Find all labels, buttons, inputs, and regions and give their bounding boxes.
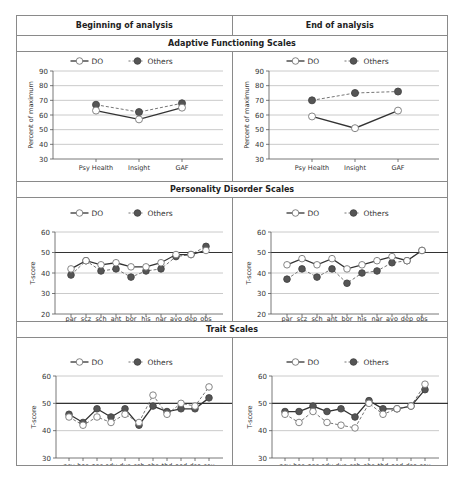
svg-text:30: 30 bbox=[41, 290, 50, 298]
column-header-end: End of analysis bbox=[232, 16, 448, 35]
chart-tr-end: 30405060T-scorepsyhosnaredydysschobsthdo… bbox=[232, 338, 448, 465]
svg-text:50: 50 bbox=[255, 126, 264, 134]
svg-text:Others: Others bbox=[363, 209, 388, 218]
svg-text:50: 50 bbox=[42, 400, 51, 408]
svg-text:80: 80 bbox=[39, 82, 48, 90]
svg-text:sch: sch bbox=[133, 462, 144, 465]
svg-text:scz: scz bbox=[296, 315, 307, 322]
svg-text:par: par bbox=[281, 315, 292, 322]
svg-text:thd: thd bbox=[162, 462, 173, 465]
line-chart-svg: 30405060T-scorepsyhosnaredydysschobsthdo… bbox=[17, 338, 232, 465]
svg-text:sex: sex bbox=[419, 462, 430, 465]
svg-text:30: 30 bbox=[42, 455, 51, 463]
svg-text:70: 70 bbox=[255, 97, 264, 105]
svg-text:Others: Others bbox=[148, 358, 173, 367]
svg-text:avo: avo bbox=[386, 315, 398, 322]
svg-text:sch: sch bbox=[311, 315, 322, 322]
svg-text:DO: DO bbox=[92, 358, 104, 367]
svg-text:sch: sch bbox=[95, 315, 106, 322]
svg-text:40: 40 bbox=[257, 270, 266, 278]
svg-text:DO: DO bbox=[92, 209, 104, 218]
svg-text:40: 40 bbox=[39, 141, 48, 149]
svg-text:DO: DO bbox=[92, 57, 104, 66]
chart-row-adaptive: 30405060708090Percent of maximumPsy Heal… bbox=[17, 52, 447, 182]
svg-text:DO: DO bbox=[307, 358, 319, 367]
svg-text:hos: hos bbox=[293, 462, 305, 465]
svg-text:bor: bor bbox=[126, 315, 137, 322]
svg-text:avo: avo bbox=[170, 315, 182, 322]
svg-text:Psy Health: Psy Health bbox=[79, 164, 113, 172]
svg-text:Others: Others bbox=[363, 358, 388, 367]
svg-text:30: 30 bbox=[257, 290, 266, 298]
svg-text:obs: obs bbox=[363, 462, 375, 465]
svg-text:Insight: Insight bbox=[343, 164, 365, 172]
svg-text:DO: DO bbox=[307, 57, 319, 66]
svg-text:hos: hos bbox=[77, 462, 89, 465]
svg-text:dep: dep bbox=[185, 315, 197, 322]
svg-text:psy: psy bbox=[279, 462, 291, 465]
svg-text:T-score: T-score bbox=[246, 405, 254, 429]
svg-text:40: 40 bbox=[42, 427, 51, 435]
svg-text:30: 30 bbox=[258, 455, 267, 463]
svg-text:40: 40 bbox=[41, 270, 50, 278]
svg-text:obs: obs bbox=[147, 462, 159, 465]
svg-text:his: his bbox=[141, 315, 151, 322]
chart-tr-begin: 30405060T-scorepsyhosnaredydysschobsthdo… bbox=[17, 338, 232, 465]
chart-pd-begin: 2030405060T-scoreparsczschantborhisnarav… bbox=[17, 198, 232, 321]
svg-text:dys: dys bbox=[335, 462, 347, 465]
svg-text:Others: Others bbox=[148, 57, 173, 66]
chart-row-personality: 2030405060T-scoreparsczschantborhisnarav… bbox=[17, 198, 447, 322]
svg-text:his: his bbox=[357, 315, 367, 322]
svg-text:obs: obs bbox=[200, 315, 212, 322]
svg-text:Insight: Insight bbox=[128, 164, 150, 172]
svg-text:50: 50 bbox=[257, 249, 266, 257]
svg-text:nar: nar bbox=[156, 315, 167, 322]
svg-text:GAF: GAF bbox=[391, 164, 404, 172]
svg-text:50: 50 bbox=[41, 249, 50, 257]
svg-text:90: 90 bbox=[39, 68, 48, 76]
svg-text:edy: edy bbox=[105, 462, 117, 465]
svg-text:60: 60 bbox=[42, 373, 51, 381]
chart-row-trait: 30405060T-scorepsyhosnaredydysschobsthdo… bbox=[17, 338, 447, 465]
chart-af-end: 30405060708090Percent of maximumPsy Heal… bbox=[232, 52, 448, 181]
section-title-trait: Trait Scales bbox=[17, 322, 447, 338]
svg-text:GAF: GAF bbox=[175, 164, 188, 172]
column-header-beginning: Beginning of analysis bbox=[17, 16, 232, 35]
svg-text:80: 80 bbox=[255, 82, 264, 90]
svg-text:sch: sch bbox=[349, 462, 360, 465]
svg-text:30: 30 bbox=[255, 156, 264, 164]
svg-text:T-score: T-score bbox=[29, 261, 37, 285]
svg-text:ant: ant bbox=[111, 315, 122, 322]
svg-text:Others: Others bbox=[148, 209, 173, 218]
svg-text:Percent of maximum: Percent of maximum bbox=[27, 81, 35, 149]
svg-text:50: 50 bbox=[39, 126, 48, 134]
svg-text:Percent of maximum: Percent of maximum bbox=[243, 81, 251, 149]
svg-text:dys: dys bbox=[119, 462, 131, 465]
chart-pd-end: 2030405060T-scoreparsczschantborhisnarav… bbox=[232, 198, 448, 321]
svg-text:50: 50 bbox=[258, 400, 267, 408]
svg-text:sex: sex bbox=[203, 462, 214, 465]
svg-text:ant: ant bbox=[326, 315, 337, 322]
svg-text:bor: bor bbox=[341, 315, 352, 322]
line-chart-svg: 2030405060T-scoreparsczschantborhisnarav… bbox=[233, 198, 448, 322]
svg-text:20: 20 bbox=[257, 311, 266, 319]
svg-text:T-score: T-score bbox=[245, 261, 253, 285]
line-chart-svg: 30405060T-scorepsyhosnaredydysschobsthdo… bbox=[233, 338, 448, 465]
line-chart-svg: 30405060708090Percent of maximumPsy Heal… bbox=[17, 52, 232, 182]
svg-text:90: 90 bbox=[255, 68, 264, 76]
svg-text:DO: DO bbox=[307, 209, 319, 218]
svg-text:nar: nar bbox=[92, 462, 103, 465]
svg-text:oed: oed bbox=[175, 462, 187, 465]
svg-text:60: 60 bbox=[255, 112, 264, 120]
svg-text:nar: nar bbox=[371, 315, 382, 322]
svg-text:Psy Health: Psy Health bbox=[294, 164, 328, 172]
line-chart-svg: 30405060708090Percent of maximumPsy Heal… bbox=[233, 52, 448, 182]
svg-text:T-score: T-score bbox=[30, 405, 38, 429]
svg-text:nar: nar bbox=[307, 462, 318, 465]
svg-text:thd: thd bbox=[377, 462, 388, 465]
section-title-adaptive: Adaptive Functioning Scales bbox=[17, 36, 447, 52]
svg-text:dsc: dsc bbox=[189, 462, 201, 465]
svg-text:obs: obs bbox=[416, 315, 428, 322]
chart-af-begin: 30405060708090Percent of maximumPsy Heal… bbox=[17, 52, 232, 181]
svg-text:scz: scz bbox=[81, 315, 92, 322]
